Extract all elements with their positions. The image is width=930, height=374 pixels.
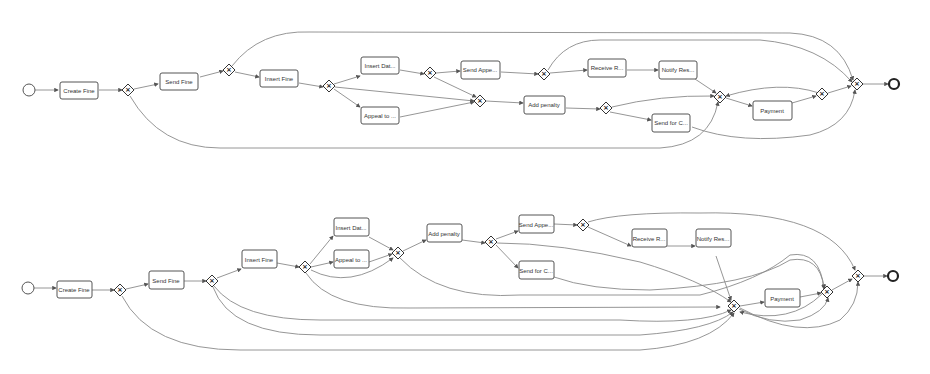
svg-text:×: ×	[117, 286, 123, 294]
bottom-model: Create Fine Send Fine Insert Fine Insert…	[22, 215, 898, 312]
gateway-xor-icon[interactable]: ×	[577, 219, 589, 231]
svg-text:Create Fine: Create Fine	[63, 88, 95, 94]
task-insert-date[interactable]: Insert Dat...	[334, 218, 369, 236]
svg-text:×: ×	[819, 90, 825, 98]
gateway-xor-icon[interactable]: ×	[392, 247, 404, 259]
gateway-xor-icon[interactable]: ×	[299, 261, 311, 273]
svg-text:Payment: Payment	[760, 108, 784, 114]
svg-text:Payment: Payment	[770, 296, 794, 302]
svg-text:Insert Fine: Insert Fine	[245, 257, 274, 263]
gateway-xor-icon[interactable]: ×	[485, 236, 497, 248]
svg-text:Notify Res...: Notify Res...	[662, 67, 695, 73]
task-send-for-credit[interactable]: Send for C...	[652, 114, 690, 132]
svg-text:×: ×	[731, 302, 737, 310]
task-receive-result[interactable]: Receive R...	[588, 59, 626, 77]
svg-text:×: ×	[854, 80, 860, 88]
task-send-appeal[interactable]: Send Appe...	[519, 215, 554, 233]
svg-text:×: ×	[603, 104, 609, 112]
task-create-fine[interactable]: Create Fine	[60, 82, 98, 99]
svg-text:×: ×	[824, 288, 830, 296]
svg-text:×: ×	[427, 69, 433, 77]
task-send-appeal[interactable]: Send Appe...	[461, 61, 500, 79]
gateway-xor-icon[interactable]: ×	[323, 80, 335, 92]
svg-text:Insert Dat...: Insert Dat...	[335, 225, 366, 231]
svg-text:×: ×	[541, 70, 547, 78]
task-appeal-to[interactable]: Appeal to ...	[334, 250, 369, 268]
task-insert-fine[interactable]: Insert Fine	[242, 250, 277, 268]
svg-text:Send Appe...: Send Appe...	[519, 222, 554, 228]
svg-text:Send Fine: Send Fine	[152, 278, 180, 284]
task-receive-result[interactable]: Receive R...	[632, 229, 667, 247]
svg-text:×: ×	[488, 238, 494, 246]
task-send-fine[interactable]: Send Fine	[160, 73, 198, 90]
svg-text:Appeal to ...: Appeal to ...	[335, 257, 367, 263]
task-send-for-credit[interactable]: Send for C...	[519, 261, 554, 279]
svg-text:×: ×	[477, 97, 483, 105]
svg-text:×: ×	[855, 272, 861, 280]
svg-text:×: ×	[209, 277, 215, 285]
svg-text:Add penalty: Add penalty	[428, 231, 460, 237]
svg-text:Notify Res...: Notify Res...	[697, 236, 730, 242]
svg-text:Add penalty: Add penalty	[528, 102, 560, 108]
gateway-xor-icon[interactable]: ×	[821, 286, 833, 298]
svg-text:Send Appe...: Send Appe...	[463, 67, 498, 73]
end-event[interactable]	[888, 271, 898, 281]
task-notify-result[interactable]: Notify Res...	[696, 229, 731, 247]
gateway-xor-icon[interactable]: ×	[816, 88, 828, 100]
start-event[interactable]	[22, 282, 34, 294]
task-send-fine[interactable]: Send Fine	[149, 271, 184, 289]
svg-text:Create Fine: Create Fine	[58, 287, 90, 293]
task-create-fine[interactable]: Create Fine	[57, 281, 92, 298]
gateway-xor-icon[interactable]: ×	[114, 284, 126, 296]
svg-text:Send for C...: Send for C...	[519, 268, 553, 274]
gateway-xor-icon[interactable]: ×	[852, 270, 864, 282]
process-model-canvas: Create Fine Send Fine Insert Fine Insert…	[0, 0, 930, 374]
svg-text:×: ×	[580, 221, 586, 229]
svg-text:×: ×	[326, 82, 332, 90]
svg-text:Insert Dat...: Insert Dat...	[364, 63, 395, 69]
gateway-xor-icon[interactable]: ×	[206, 275, 218, 287]
top-model: Create Fine Send Fine Insert Fine Insert…	[23, 57, 899, 132]
svg-text:×: ×	[125, 86, 131, 94]
task-insert-fine[interactable]: Insert Fine	[260, 70, 298, 87]
svg-text:×: ×	[395, 249, 401, 257]
svg-text:×: ×	[226, 66, 232, 74]
svg-text:Send Fine: Send Fine	[165, 79, 193, 85]
svg-text:Send for C...: Send for C...	[654, 120, 688, 126]
task-appeal-to[interactable]: Appeal to ...	[361, 107, 399, 124]
svg-text:Appeal to ...: Appeal to ...	[364, 113, 396, 119]
task-payment[interactable]: Payment	[765, 289, 800, 307]
gateway-xor-icon[interactable]: ×	[122, 84, 134, 96]
task-insert-date[interactable]: Insert Dat...	[361, 57, 399, 74]
start-event[interactable]	[23, 84, 35, 96]
task-add-penalty[interactable]: Add penalty	[524, 96, 565, 114]
gateway-xor-icon[interactable]: ×	[223, 64, 235, 76]
svg-text:Receive R...: Receive R...	[591, 65, 624, 71]
end-event[interactable]	[889, 79, 899, 89]
task-add-penalty[interactable]: Add penalty	[427, 224, 462, 242]
svg-text:×: ×	[302, 263, 308, 271]
svg-text:Insert Fine: Insert Fine	[265, 76, 294, 82]
task-notify-result[interactable]: Notify Res...	[659, 61, 697, 79]
task-payment[interactable]: Payment	[753, 101, 792, 120]
svg-text:Receive R...: Receive R...	[633, 236, 666, 242]
svg-text:×: ×	[717, 93, 723, 101]
